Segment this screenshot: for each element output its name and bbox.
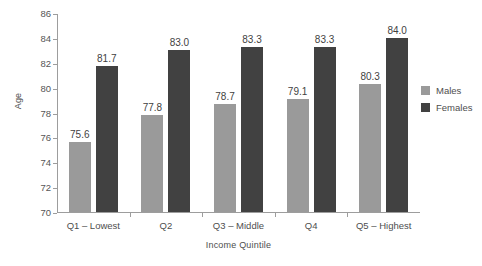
bar-males-2 [141, 115, 163, 212]
bar-females-3 [241, 47, 263, 212]
y-axis-tick-label: 70 [23, 208, 51, 218]
bar-chart: Age 707274767880828486 75.681.777.883.07… [0, 0, 482, 266]
bar-males-4 [287, 99, 309, 212]
bar-females-1 [96, 66, 118, 212]
bar-females-5 [386, 38, 408, 212]
bar-value-label: 83.0 [161, 37, 197, 48]
bar-value-label: 84.0 [379, 25, 415, 36]
y-axis-tick-mark [53, 213, 57, 214]
legend-swatch-icon [421, 86, 430, 95]
y-axis-tick-label: 78 [23, 109, 51, 119]
bar-value-label: 79.1 [280, 86, 316, 97]
bar-males-3 [214, 104, 236, 212]
bar-males-5 [359, 84, 381, 212]
bar-value-label: 83.3 [234, 34, 270, 45]
legend-item-females: Females [421, 99, 481, 116]
y-axis-tick-label: 76 [23, 133, 51, 143]
legend-label: Males [436, 85, 461, 96]
y-axis-tick-mark [53, 89, 57, 90]
y-axis-tick-label: 86 [23, 9, 51, 19]
y-axis-tick-label: 84 [23, 34, 51, 44]
legend-swatch-icon [421, 103, 430, 112]
bar-value-label: 80.3 [352, 71, 388, 82]
x-axis-tick-mark [130, 213, 131, 217]
y-axis-tick-label: 82 [23, 59, 51, 69]
bar-females-2 [168, 50, 190, 212]
bar-value-label: 78.7 [207, 91, 243, 102]
legend-item-males: Males [421, 82, 481, 99]
bar-value-label: 77.8 [134, 102, 170, 113]
y-axis-tick-mark [53, 64, 57, 65]
bar-females-4 [314, 47, 336, 212]
plot-area: 75.681.777.883.078.783.379.183.380.384.0 [57, 14, 420, 213]
y-axis-line [57, 14, 58, 213]
y-axis-tick-label: 80 [23, 84, 51, 94]
legend-label: Females [436, 102, 472, 113]
y-axis-title: Age [13, 81, 23, 121]
y-axis-tick-mark [53, 163, 57, 164]
x-axis-tick-mark [275, 213, 276, 217]
x-axis-tick-mark [347, 213, 348, 217]
y-axis-tick-label: 72 [23, 183, 51, 193]
y-axis-tick-label: 74 [23, 158, 51, 168]
y-axis-tick-mark [53, 188, 57, 189]
y-axis-tick-mark [53, 39, 57, 40]
bar-value-label: 81.7 [89, 53, 125, 64]
x-axis-title: Income Quintile [57, 240, 420, 250]
bar-value-label: 83.3 [307, 34, 343, 45]
y-axis-tick-mark [53, 14, 57, 15]
bar-value-label: 75.6 [62, 129, 98, 140]
y-axis-tick-mark [53, 114, 57, 115]
x-axis-category-label: Q5 – Highest [332, 220, 435, 231]
x-axis-line [57, 212, 420, 213]
y-axis-tick-mark [53, 138, 57, 139]
bar-males-1 [69, 142, 91, 212]
legend: MalesFemales [421, 82, 481, 116]
x-axis-tick-mark [202, 213, 203, 217]
